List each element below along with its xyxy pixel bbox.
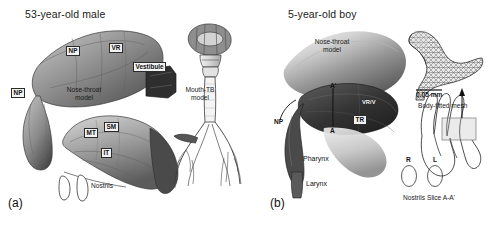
label-nostrils-b: Nostrils (403, 194, 425, 202)
panel-a: 53-year-old male (0, 0, 246, 226)
label-nose-throat-model-b-line2: model (304, 46, 360, 54)
label-it-a: IT (101, 148, 112, 158)
label-np-lower-a: NP (11, 88, 25, 98)
label-sm-a: SM (104, 122, 119, 132)
label-mouth-tb-model-line2: model (176, 94, 224, 102)
label-section-a-prime: A' (330, 82, 336, 90)
label-np-b: NP (274, 118, 283, 126)
nose-throat-model-b (280, 31, 406, 198)
label-body-fitted-mesh: Body-fitted mesh (418, 102, 467, 110)
mouth-tb-model (172, 24, 241, 188)
label-vr-a: VR (109, 43, 123, 53)
label-nose-throat-model-b-line1: Nose-throat (304, 38, 360, 46)
panel-b: 5-year-old boy (246, 0, 492, 226)
label-scale-bar-b: 0.05 mm (416, 91, 442, 99)
label-vr-v-b: VR/V (362, 99, 376, 107)
nostrils-outline-a (59, 175, 88, 201)
label-np-upper-a: NP (66, 46, 80, 56)
caption-a: (a) (8, 196, 23, 210)
panel-a-graphics (0, 0, 246, 226)
figure-canvas: 53-year-old male (0, 0, 492, 226)
label-nostril-right-b: R (406, 156, 411, 164)
label-section-a: A (330, 127, 335, 135)
label-nose-throat-model-a-line2: model (55, 94, 113, 102)
label-mouth-tb-model-line1: Mouth-TB (176, 86, 224, 94)
label-slice-a-a-prime: Slice A-A' (427, 194, 455, 202)
body-fitted-mesh (409, 30, 483, 100)
panel-b-graphics (246, 0, 492, 226)
label-pharynx-b: Pharynx (303, 155, 329, 163)
label-nostrils-a: Nostrils (91, 182, 113, 190)
label-larynx-b: Larynx (306, 180, 327, 188)
label-nostril-left-b: L (433, 156, 437, 164)
label-mt-a: MT (84, 128, 98, 138)
label-tr-b: TR (353, 115, 367, 125)
label-vestibule-a: Vestibule (133, 62, 166, 72)
nostrils-outline-b (402, 166, 443, 187)
label-nose-throat-model-a-line1: Nose-throat (55, 86, 113, 94)
caption-b: (b) (270, 196, 285, 210)
